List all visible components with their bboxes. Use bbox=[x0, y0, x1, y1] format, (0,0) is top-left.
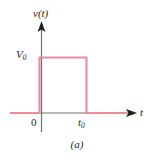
pulse-path bbox=[10, 58, 126, 114]
x-value-subscript: 0 bbox=[81, 121, 85, 130]
figure-caption: (a) bbox=[0, 139, 154, 150]
origin-label: 0 bbox=[31, 117, 37, 128]
y-value-base: V bbox=[16, 48, 23, 60]
x-axis-label: t bbox=[140, 107, 143, 118]
x-value-label: t0 bbox=[78, 117, 85, 130]
y-value-label: V0 bbox=[16, 49, 26, 62]
y-axis-label: v(t) bbox=[33, 8, 48, 19]
pulse-waveform bbox=[10, 58, 126, 114]
y-value-subscript: 0 bbox=[23, 53, 27, 62]
figure-container: v(t) t V0 t0 0 (a) bbox=[0, 0, 154, 162]
